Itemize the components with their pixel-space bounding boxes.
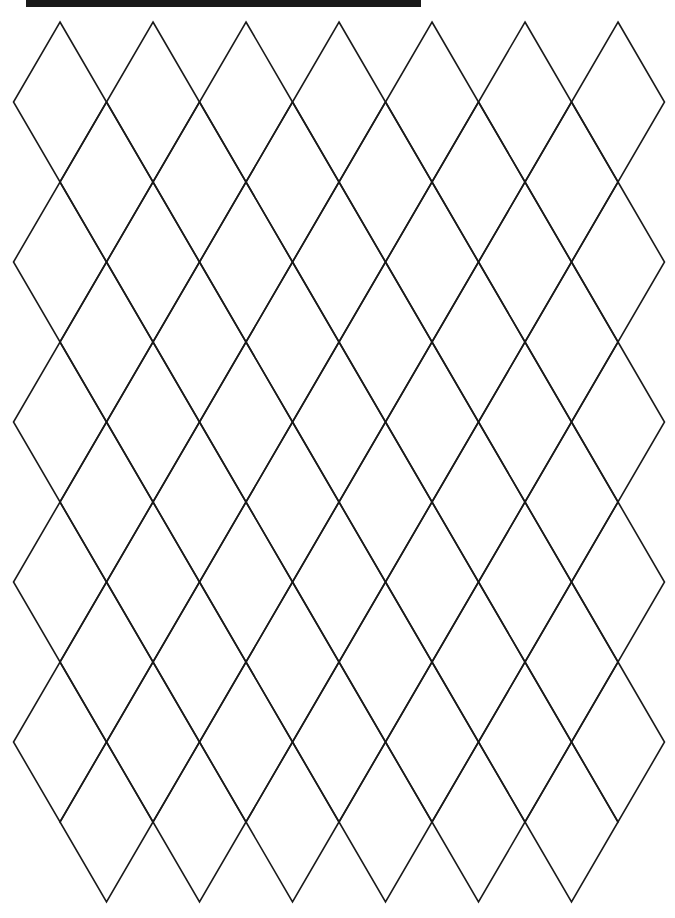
diamond-cell [572,662,665,822]
diamond-cell [107,182,200,342]
diamond-cell [572,22,665,182]
diamond-cell [572,502,665,662]
diamond-cell [339,102,432,262]
diamond-cell [432,262,525,422]
diamond-cell [14,662,107,822]
diamond-cell [14,22,107,182]
diamond-cell [572,342,665,502]
diamond-cell [432,422,525,582]
diamond-cell [107,662,200,822]
diamond-cell [479,182,572,342]
diamond-cell [246,262,339,422]
diamond-cell [386,22,479,182]
diamond-cell [479,22,572,182]
diamond-cell [107,22,200,182]
diamond-cell [525,262,618,422]
diamond-cell [107,502,200,662]
diamond-cell [107,342,200,502]
diamond-cell [479,342,572,502]
diamond-cell [432,742,525,902]
diamond-cell [525,102,618,262]
diamond-cell [60,742,153,902]
diamond-cell [200,502,293,662]
diamond-cell [525,742,618,902]
diamond-cell [14,342,107,502]
diamond-cell [200,22,293,182]
diamond-cell [153,582,246,742]
diamond-cell [432,102,525,262]
diamond-cell [246,422,339,582]
diamond-cell [14,182,107,342]
diamond-cell [339,422,432,582]
diamond-cell [60,582,153,742]
diamond-cell [60,102,153,262]
diamond-cell [60,422,153,582]
diamond-cell [14,502,107,662]
diamond-cell [293,662,386,822]
diamond-cell [200,662,293,822]
diamond-cell [293,22,386,182]
diamond-grid-pattern [0,0,675,918]
diamond-cell [525,422,618,582]
diamond-cell [200,342,293,502]
diamond-cell [479,662,572,822]
diamond-cell [479,502,572,662]
diamond-cell [246,742,339,902]
diamond-cell [246,582,339,742]
diamond-cell [572,182,665,342]
diamond-cell [386,662,479,822]
diamond-cell [293,342,386,502]
diamond-cell [339,262,432,422]
diamond-cell [293,182,386,342]
diamond-cell [525,582,618,742]
diamond-cell [153,102,246,262]
diamond-cell [339,582,432,742]
diamond-cell [153,262,246,422]
diamond-cell [153,422,246,582]
diamond-cell [386,342,479,502]
diamond-cell [386,182,479,342]
diamond-cell [200,182,293,342]
diamond-cell [246,102,339,262]
diamond-cell [60,262,153,422]
diamond-cell [432,582,525,742]
diamond-cell [153,742,246,902]
diamond-cell [339,742,432,902]
diamond-cell [386,502,479,662]
diamond-cell [293,502,386,662]
